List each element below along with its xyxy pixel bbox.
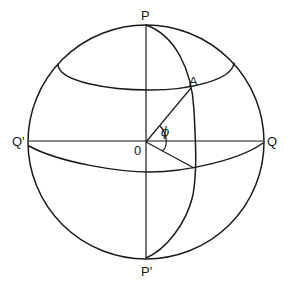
- sphere-diagram: P P' Q' Q 0 A ϕ: [0, 0, 294, 289]
- label-p: P: [141, 8, 150, 23]
- label-q-prime: Q': [12, 134, 25, 149]
- label-q: Q: [267, 134, 277, 149]
- label-p-prime: P': [141, 264, 152, 279]
- label-a: A: [189, 74, 198, 89]
- radius-equator: [146, 142, 194, 168]
- label-phi: ϕ: [161, 125, 169, 139]
- label-o: 0: [134, 143, 141, 158]
